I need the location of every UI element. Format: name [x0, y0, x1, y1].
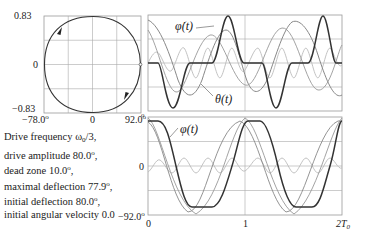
initial-angular-velocity: initial angular velocity 0.0: [4, 208, 115, 221]
divider-degree: o: [141, 110, 145, 124]
deflection-y-min: −92.0o: [118, 209, 145, 222]
initial-deflection: initial deflection 80.0o,: [4, 193, 115, 208]
phase-y-max: 0.83: [14, 11, 32, 21]
phidot-label: φ̇(t): [175, 20, 193, 32]
deflection-y-zero: 0: [139, 162, 144, 172]
parameters-text: Drive frequency ω0/3, drive amplitude 80…: [4, 130, 115, 221]
dead-zone: dead zone 10.0o,: [4, 162, 115, 177]
phi-label: φ(t): [180, 123, 198, 135]
deflection-plot: [148, 117, 342, 215]
drive-frequency: Drive frequency ω0/3,: [4, 130, 115, 147]
phase-plot: [44, 16, 142, 113]
phase-x-min: −78.0o: [22, 112, 49, 125]
phase-x-zero: 0: [90, 115, 95, 125]
drive-amplitude: drive amplitude 80.0o,: [4, 147, 115, 162]
phase-grid: [44, 16, 141, 113]
time-x-zero: 0: [146, 219, 151, 229]
maximal-deflection: maximal deflection 77.9o,: [4, 178, 115, 193]
time-x-one: 1: [243, 219, 248, 229]
time-x-two: 2T0: [336, 219, 350, 232]
phase-y-zero: 0: [33, 60, 38, 70]
theta-label: θ(t): [215, 93, 232, 105]
